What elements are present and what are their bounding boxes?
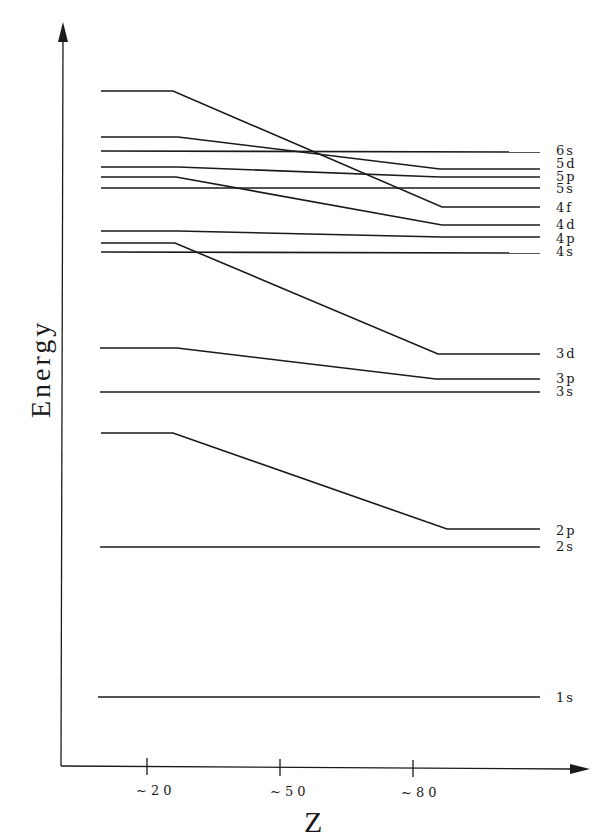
energy-level-diagram: ~20 ~50 ~80 Z Energy 6s 5d 5p 5s 4f 4d 4… — [0, 0, 608, 837]
level-4f — [101, 91, 540, 207]
level-4s — [101, 252, 540, 253]
axes: ~20 ~50 ~80 Z Energy — [25, 22, 590, 837]
label-4s: 4s — [556, 244, 575, 259]
x-axis-arrow-icon — [570, 764, 590, 774]
label-1s: 1s — [556, 690, 575, 705]
level-2p — [101, 433, 540, 529]
x-axis-title: Z — [304, 805, 322, 837]
level-labels: 6s 5d 5p 5s 4f 4d 4p 4s 3d 3p 3s 2p 2s 1… — [556, 143, 577, 705]
level-3p — [100, 348, 540, 379]
label-2p: 2p — [556, 523, 577, 538]
level-4p — [101, 231, 540, 237]
x-tick-label-50: ~50 — [270, 784, 309, 799]
label-3d: 3d — [556, 346, 577, 361]
y-axis — [61, 40, 63, 766]
x-tick-label-80: ~80 — [401, 785, 440, 800]
level-6s — [101, 151, 540, 152]
label-4f: 4f — [556, 200, 573, 215]
x-tick-label-20: ~20 — [136, 783, 175, 798]
label-4d: 4d — [556, 217, 577, 232]
label-3s: 3s — [556, 384, 575, 399]
level-3d — [101, 243, 540, 354]
x-axis — [61, 766, 572, 769]
label-2s: 2s — [556, 539, 575, 554]
level-4d — [101, 177, 540, 225]
level-5d — [101, 137, 540, 169]
y-axis-title: Energy — [25, 320, 56, 418]
label-5s: 5s — [556, 181, 575, 196]
energy-levels — [98, 91, 540, 697]
y-axis-arrow-icon — [58, 22, 68, 42]
